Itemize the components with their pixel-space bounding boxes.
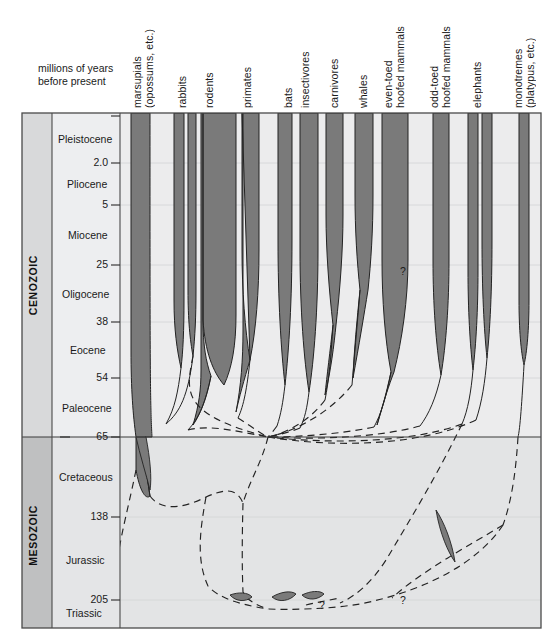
band-elephants-1 [468,113,478,370]
tick-label-25: 25 [58,258,108,270]
axis-caption: millions of years before present [38,62,120,87]
tick-label-2: 2.0 [58,156,108,168]
uncertainty-marker-odd-toed: ? [400,265,406,277]
tick-label-138: 138 [58,510,108,522]
taxon-label-whales: whales [357,4,369,108]
era-label-cenozoic: CENOZOIC [27,255,39,315]
era-label-mesozoic: MESOZOIC [27,505,39,566]
taxon-label-elephants: elephants [471,4,483,108]
uncertainty-marker-triassic: ? [319,599,325,611]
epoch-label-cretaceous: Cretaceous [59,471,113,483]
epoch-label-eocene: Eocene [70,344,106,356]
taxon-label-marsupials: marsupials (opossums, etc.) [131,4,155,108]
band-rabbits-2 [188,113,196,356]
tick-label-38: 38 [58,315,108,327]
taxon-label-primates: primates [241,4,253,108]
band-monotremes [519,113,529,365]
taxon-label-rabbits: rabbits [176,4,188,108]
epoch-label-miocene: Miocene [68,229,108,241]
figure-canvas: millions of years before present CENOZOI… [0,0,557,637]
taxon-label-odd-toed: odd-toed hoofed mammals [428,4,452,108]
taxon-label-even-toed: even-toed hoofed mammals [382,4,406,108]
epoch-label-oligocene: Oligocene [62,288,109,300]
epoch-label-pleistocene: Pleistocene [58,133,112,145]
taxon-label-insectivores: insectivores [299,4,311,108]
tick-label-5: 5 [58,198,108,210]
tick-label-205: 205 [58,593,108,605]
epoch-label-paleocene: Paleocene [62,402,112,414]
epoch-label-pliocene: Pliocene [67,178,107,190]
taxon-label-monotremes: monotremes (platypus, etc.) [512,4,536,108]
band-rabbits [174,113,184,368]
tick-label-54: 54 [58,371,108,383]
taxon-label-rodents: rodents [203,4,215,108]
uncertainty-marker-monotreme: ? [400,594,406,606]
tick-label-65: 65 [58,430,108,442]
epoch-label-jurassic: Jurassic [66,554,105,566]
taxon-label-bats: bats [282,4,294,108]
taxon-label-carnivores: carnivores [328,4,340,108]
epoch-label-triassic: Triassic [66,607,102,619]
